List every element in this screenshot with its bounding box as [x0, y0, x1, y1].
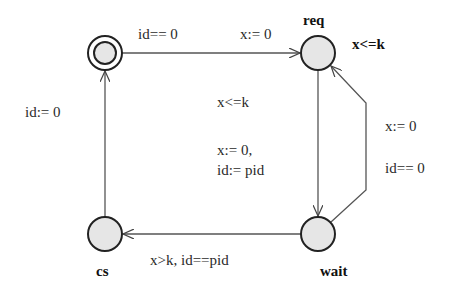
right-guard-label: id== 0	[385, 160, 425, 176]
left-update-label: id:= 0	[25, 104, 61, 120]
top-guard-label: id== 0	[138, 26, 178, 42]
right-update-label: x:= 0	[385, 118, 416, 134]
wait-name-label: wait	[320, 263, 348, 279]
location-req[interactable]	[301, 36, 335, 70]
req-invariant-label: x<=k	[352, 36, 385, 52]
top-update-label: x:= 0	[240, 26, 271, 42]
center-update2-label: id:= pid	[217, 162, 264, 178]
location-cs[interactable]	[88, 217, 122, 251]
location-init[interactable]	[88, 36, 122, 70]
edge-wait-to-req[interactable]	[331, 66, 366, 222]
req-name-label: req	[303, 12, 324, 28]
location-wait[interactable]	[301, 217, 335, 251]
center-invariant-label: x<=k	[217, 94, 249, 110]
cs-name-label: cs	[96, 263, 109, 279]
center-update1-label: x:= 0,	[217, 142, 252, 158]
bottom-guard-label: x>k, id==pid	[150, 252, 229, 268]
